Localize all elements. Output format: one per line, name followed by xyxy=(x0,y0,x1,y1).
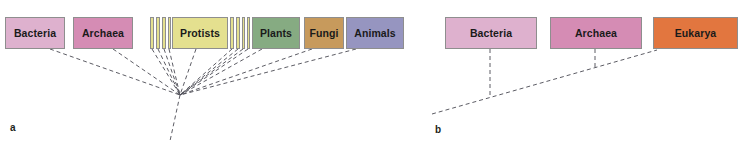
panel-a-box-label-animals: Animals xyxy=(354,28,396,39)
panel-a-branch-plants xyxy=(180,49,262,95)
panel-b-box-bacteria: Bacteria xyxy=(445,17,537,49)
panel-a-branch-animals xyxy=(180,49,356,95)
panel-a-box-bacteria: Bacteria xyxy=(5,17,65,49)
panel-a-box-label-bacteria: Bacteria xyxy=(14,28,56,39)
panel-a-branch-protist-lineage-bar-2 xyxy=(158,49,180,95)
panel-a-protist-lineage-bar-3 xyxy=(162,17,166,49)
panel-a-box-animals: Animals xyxy=(346,17,404,49)
panel-a-branch-archaea xyxy=(113,49,180,95)
panel-a-box-label-archaea: Archaea xyxy=(82,28,124,39)
panel-b-box-eukarya: Eukarya xyxy=(653,17,738,49)
panel-a-protist-lineage-bar-1 xyxy=(150,17,154,49)
panel-a-connector-lines xyxy=(50,49,356,141)
panel-a-branch-fungi xyxy=(180,49,312,95)
panel-a-protist-lineage-bar-5 xyxy=(230,17,234,49)
panel-a-branch-protist-lineage-bar-3 xyxy=(164,49,180,95)
panel-a-box-plants: Plants xyxy=(252,17,300,49)
panel-a-protist-lineage-bar-8 xyxy=(247,17,250,49)
panel-b-box-label-eukarya: Eukarya xyxy=(675,28,717,39)
phylogeny-figure: BacteriaArchaeaProtistsPlantsFungiAnimal… xyxy=(0,0,744,150)
panel-a-box-archaea: Archaea xyxy=(73,17,133,49)
panel-b-box-label-bacteria: Bacteria xyxy=(470,28,512,39)
panel-a-box-protists: Protists xyxy=(172,17,228,49)
panel-a-branch-protist-lineage-bar-4 xyxy=(169,49,180,95)
panel-a-box-label-protists: Protists xyxy=(180,28,220,39)
panel-a-box-label-fungi: Fungi xyxy=(309,28,338,39)
panel-a-protist-lineage-bar-4 xyxy=(168,17,171,49)
panel-a-root-stem xyxy=(170,95,180,141)
panel-a-box-label-plants: Plants xyxy=(260,28,292,39)
panel-b-box-archaea: Archaea xyxy=(550,17,642,49)
panel-label-b: b xyxy=(435,124,441,135)
panel-b-box-label-archaea: Archaea xyxy=(575,28,617,39)
panel-b-connector-lines xyxy=(432,49,657,114)
panel-a-protist-lineage-bar-2 xyxy=(156,17,160,49)
panel-a-protist-lineage-bar-7 xyxy=(242,17,245,49)
panel-b-backbone xyxy=(432,50,657,114)
panel-label-a: a xyxy=(10,122,16,133)
panel-a-protist-lineage-bar-6 xyxy=(236,17,240,49)
panel-a-box-fungi: Fungi xyxy=(304,17,344,49)
panel-a-branch-bacteria xyxy=(50,49,180,95)
